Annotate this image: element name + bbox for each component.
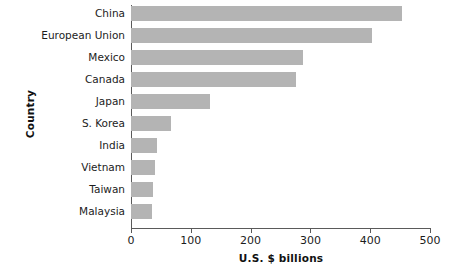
x-axis-tick-mark (310, 229, 311, 233)
x-axis-tick-label: 100 (171, 234, 211, 247)
bar-canada (131, 72, 296, 87)
x-axis-tick-label: 200 (231, 234, 271, 247)
bar-chart: Country China European Union Mexico Cana… (0, 0, 458, 280)
bar-s-korea (131, 116, 171, 131)
y-axis-tick-label: Mexico (0, 50, 125, 65)
x-axis-tick-mark (131, 229, 132, 233)
x-axis-tick-mark (251, 229, 252, 233)
x-axis-tick-label: 300 (290, 234, 330, 247)
x-axis-tick-mark (191, 229, 192, 233)
x-axis-tick-label: 0 (111, 234, 151, 247)
x-axis-tick-label: 500 (410, 234, 450, 247)
x-axis-tick-label: 400 (350, 234, 390, 247)
y-axis-tick-label: China (0, 6, 125, 21)
bar-china (131, 6, 402, 21)
bar-vietnam (131, 160, 155, 175)
x-axis-line (131, 228, 431, 229)
x-axis-tick-mark (430, 229, 431, 233)
y-axis-tick-label: India (0, 138, 125, 153)
y-axis-tick-label: Taiwan (0, 182, 125, 197)
y-axis-tick-label: European Union (0, 28, 125, 43)
bar-malaysia (131, 204, 152, 219)
bar-taiwan (131, 182, 153, 197)
x-axis-title: U.S. $ billions (131, 252, 431, 264)
y-axis-tick-label: Vietnam (0, 160, 125, 175)
y-axis-tick-label: Canada (0, 72, 125, 87)
bar-european-union (131, 28, 372, 43)
bar-india (131, 138, 157, 153)
bar-mexico (131, 50, 303, 65)
x-axis-tick-mark (370, 229, 371, 233)
y-axis-tick-label: S. Korea (0, 116, 125, 131)
y-axis-tick-label: Japan (0, 94, 125, 109)
y-axis-tick-label: Malaysia (0, 204, 125, 219)
plot-area (131, 6, 430, 228)
bar-japan (131, 94, 210, 109)
